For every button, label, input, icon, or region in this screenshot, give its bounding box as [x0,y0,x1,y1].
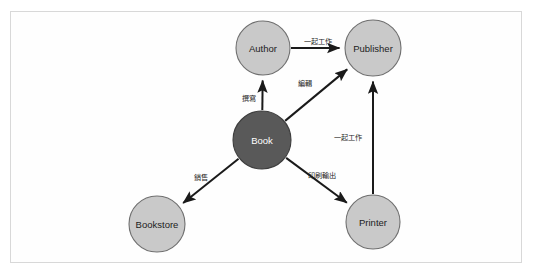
edge-label-book-bookstore: 銷售 [194,173,208,182]
node-publisher[interactable]: Publisher [345,20,401,76]
edge-label-author-publisher: 一起工作 [304,37,332,46]
edge-label-book-printer: 印刷輸出 [308,171,336,180]
node-author[interactable]: Author [236,21,290,75]
figure-root: 一起工作撰寫編輯銷售印刷輸出一起工作 AuthorPublisherBookBo… [0,0,533,275]
node-book[interactable]: Book [233,111,291,169]
edge-label-book-publisher: 編輯 [298,79,312,88]
node-label-author: Author [249,43,277,54]
edge-label-printer-publisher: 一起工作 [334,133,362,142]
node-label-printer: Printer [359,217,387,228]
edge-book-printer [286,158,347,203]
node-bookstore[interactable]: Bookstore [129,196,185,252]
edge-book-publisher [285,69,347,120]
edge-label-book-author: 撰寫 [242,94,256,103]
node-printer[interactable]: Printer [346,195,400,249]
node-label-publisher: Publisher [353,43,393,54]
node-label-bookstore: Bookstore [136,219,179,230]
node-label-book: Book [251,135,273,146]
edge-book-bookstore [183,159,238,203]
diagram-canvas: 一起工作撰寫編輯銷售印刷輸出一起工作 AuthorPublisherBookBo… [0,0,533,275]
